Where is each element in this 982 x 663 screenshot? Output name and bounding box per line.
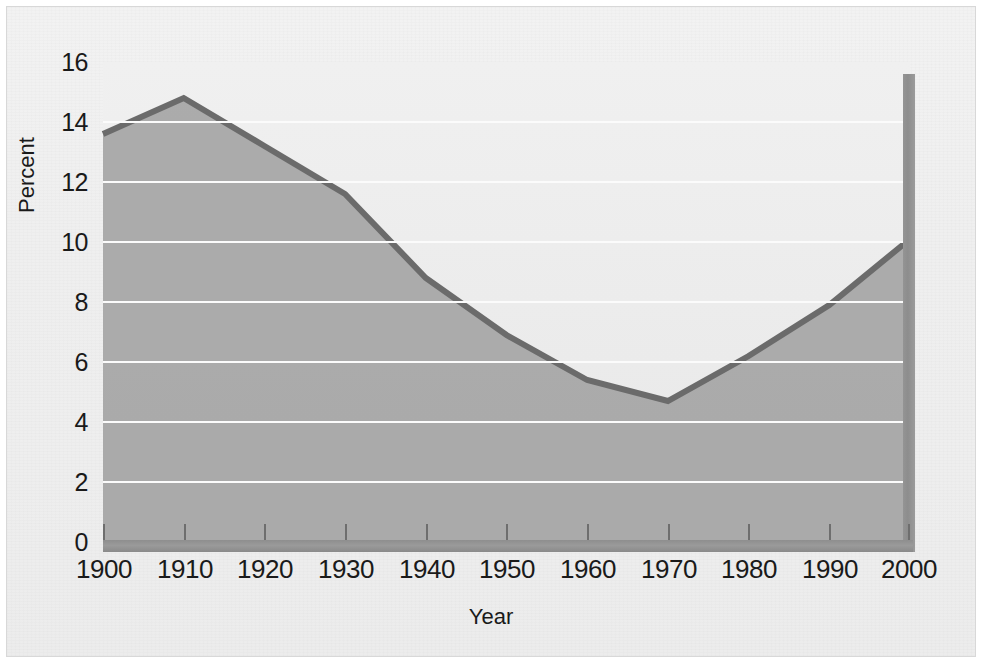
x-axis-baseline bbox=[103, 540, 913, 552]
x-tick-2000 bbox=[908, 524, 910, 540]
y-tick-label-16: 16 bbox=[28, 50, 88, 75]
x-tick-label-2000: 2000 bbox=[854, 556, 964, 582]
gridline-8 bbox=[103, 301, 910, 303]
x-tick-1960 bbox=[587, 524, 589, 540]
area-chart: 16 14 12 10 8 6 4 2 0 Percent 1900 1910 … bbox=[0, 0, 982, 663]
series-area-fill bbox=[103, 98, 910, 542]
x-axis-title: Year bbox=[0, 604, 982, 630]
y-axis-title: Percent bbox=[14, 100, 40, 250]
x-tick-1940 bbox=[426, 524, 428, 540]
x-tick-1910 bbox=[184, 524, 186, 540]
x-tick-1920 bbox=[264, 524, 266, 540]
chart-page: 16 14 12 10 8 6 4 2 0 Percent 1900 1910 … bbox=[0, 0, 982, 663]
y-tick-label-2: 2 bbox=[28, 470, 88, 495]
gridline-4 bbox=[103, 421, 910, 423]
gridline-2 bbox=[103, 481, 910, 483]
gridline-14 bbox=[103, 121, 910, 123]
gridline-12 bbox=[103, 181, 910, 183]
gridline-10 bbox=[103, 241, 910, 243]
gridline-6 bbox=[103, 361, 910, 363]
x-tick-1980 bbox=[748, 524, 750, 540]
x-tick-1990 bbox=[829, 524, 831, 540]
y-tick-label-0: 0 bbox=[28, 530, 88, 555]
x-tick-1950 bbox=[506, 524, 508, 540]
annotation-vertical-bar bbox=[903, 74, 915, 552]
x-tick-1970 bbox=[668, 524, 670, 540]
x-tick-1930 bbox=[345, 524, 347, 540]
x-tick-1900 bbox=[103, 524, 105, 540]
y-tick-label-8: 8 bbox=[28, 290, 88, 315]
plot-area bbox=[103, 62, 910, 542]
y-tick-label-4: 4 bbox=[28, 410, 88, 435]
y-tick-label-6: 6 bbox=[28, 350, 88, 375]
